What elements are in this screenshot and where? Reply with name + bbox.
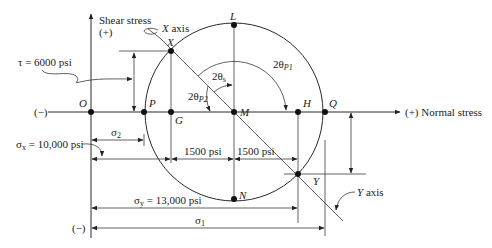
shear-positive-label: (+) [99, 26, 113, 39]
label-y: Y [313, 175, 321, 187]
sigmay-label: σy = 13,000 psi [134, 194, 201, 208]
angle-2theta-p2-label: 2θP2 [188, 90, 208, 104]
point-y [295, 171, 301, 177]
x-axis-label: X axis [161, 22, 189, 34]
y-axis-leader [336, 192, 355, 210]
negative-bottom-label: (−) [72, 222, 86, 235]
point-g [168, 109, 174, 115]
label-h: H [302, 97, 312, 109]
angle-2theta-p1-label: 2θP1 [273, 58, 293, 72]
tau-label: τ = 6000 psi [18, 56, 72, 68]
sigma2-label: σ2 [111, 126, 121, 140]
label-l: L [229, 10, 236, 22]
y-axis-label: Y axis [357, 186, 384, 198]
label-o: O [79, 97, 87, 109]
label-n: N [238, 189, 247, 201]
arc-2theta-s [214, 85, 232, 92]
label-g: G [175, 114, 183, 126]
point-n [231, 196, 237, 202]
half-diff-right-label: 1500 psi [237, 145, 275, 157]
label-m: M [239, 106, 250, 118]
sigma1-label: σ1 [195, 214, 205, 228]
mohrs-circle-diagram: Shear stress (+) (+) Normal stress (−) (… [0, 0, 492, 248]
shear-stress-label: Shear stress [99, 14, 151, 26]
normal-stress-label: (+) Normal stress [405, 106, 482, 119]
point-l [231, 22, 237, 28]
point-o [88, 109, 94, 115]
sigmax-label: σx = 10,000 psi [16, 138, 83, 152]
negative-left-label: (−) [34, 106, 48, 119]
tau-leader [42, 70, 132, 83]
angle-2theta-s-label: 2θs [212, 70, 226, 84]
point-q [322, 109, 328, 115]
point-m [231, 109, 237, 115]
label-p: P [148, 97, 156, 109]
point-p [141, 109, 147, 115]
label-q: Q [329, 97, 337, 109]
label-x: X [166, 36, 175, 48]
point-x [168, 48, 174, 54]
half-diff-left-label: 1500 psi [184, 145, 222, 157]
point-h [295, 109, 301, 115]
sigmax-leader [82, 144, 102, 156]
